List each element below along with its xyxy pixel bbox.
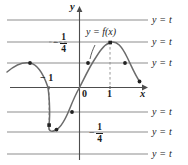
curve-point: [70, 110, 74, 114]
horizontal-line-label-5: y = t: [152, 127, 172, 137]
curve-point: [123, 61, 127, 65]
horizontal-line-label-6: y = t: [152, 149, 172, 159]
y-tick-label-quarter-lower: − 1 4: [89, 123, 103, 144]
axes-group: [10, 6, 148, 160]
x-axis-label: x: [140, 89, 145, 100]
x-tick-label-zero: 0: [82, 89, 87, 99]
function-label: y = f(x): [86, 27, 116, 37]
curve-point: [47, 123, 51, 127]
horizontal-line-label-1: y = t: [152, 15, 172, 25]
graph-figure: y x y = f(x) 0 1 − 1 − 1 4 − 1 4 y = t y…: [0, 0, 188, 165]
fraction-numerator: 1: [96, 123, 103, 133]
y-axis-label: y: [70, 2, 75, 13]
curve-points-group: [28, 41, 141, 132]
curve-point: [55, 128, 59, 132]
fraction-stack: 1 4: [96, 123, 103, 144]
fraction-denominator: 4: [96, 134, 103, 144]
x-tick-label-neg-one: − 1: [40, 73, 53, 83]
x-tick-label-one: 1: [107, 89, 112, 99]
fraction-sign: −: [53, 38, 59, 48]
fraction-denominator: 4: [60, 44, 67, 54]
horizontal-line-label-3: y = t: [152, 58, 172, 68]
fraction-stack: 1 4: [60, 33, 67, 54]
y-axis-arrow: [77, 6, 83, 12]
function-curve: [7, 42, 140, 131]
curve-point: [138, 80, 142, 84]
function-label-leader: [90, 45, 95, 59]
horizontal-line-label-4: y = t: [152, 107, 172, 117]
curve-point: [86, 61, 90, 65]
curve-point-max: [108, 41, 112, 45]
fraction-sign: −: [89, 128, 95, 138]
y-tick-label-quarter-upper: − 1 4: [53, 33, 67, 54]
curve-point: [28, 61, 32, 65]
horizontal-line-label-2: y = t: [152, 37, 172, 47]
fraction-numerator: 1: [60, 33, 67, 43]
